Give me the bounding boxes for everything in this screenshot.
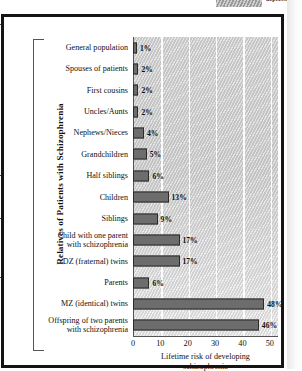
bar-value-label: 6% bbox=[152, 278, 163, 287]
bar-row-label: DZ (fraternal) twins bbox=[45, 257, 133, 266]
bar bbox=[133, 106, 138, 117]
bar-value-label: 2% bbox=[141, 86, 152, 95]
bar-track: 6% bbox=[133, 165, 283, 186]
bar-row-label-line1: First cousins bbox=[87, 86, 128, 95]
bar bbox=[133, 149, 147, 160]
bar-row-label: General population bbox=[45, 43, 133, 52]
bar bbox=[133, 42, 137, 53]
bar-value-label: 2% bbox=[141, 107, 152, 116]
bar-row: General population1% bbox=[45, 37, 283, 58]
bar-track: 13% bbox=[133, 187, 283, 208]
bar-track: 5% bbox=[133, 144, 283, 165]
bar-row-label-line1: Children bbox=[100, 193, 128, 202]
bar-track: 17% bbox=[133, 229, 283, 250]
bar-row: Child with one parentwith schizophrenia1… bbox=[45, 229, 283, 250]
bar-row-label-line1: Nephews/Nieces bbox=[74, 128, 128, 137]
bar-track: 9% bbox=[133, 208, 283, 229]
bar-row: Spouses of patients2% bbox=[45, 58, 283, 79]
bar-track: 4% bbox=[133, 122, 283, 143]
bar-value-label: 46% bbox=[262, 321, 277, 330]
bar bbox=[133, 128, 144, 139]
hatched-swatch-icon bbox=[216, 0, 262, 7]
bar-row-label: Spouses of patients bbox=[45, 64, 133, 73]
bar bbox=[133, 170, 149, 181]
x-tick-label-40: 40 bbox=[238, 339, 246, 348]
bar-row-label: Half siblings bbox=[45, 171, 133, 180]
bar-rows: General population1%Spouses of patients2… bbox=[45, 37, 283, 336]
bar-row-label-line1: Uncles/Aunts bbox=[84, 107, 128, 116]
bar-chart: General population1%Spouses of patients2… bbox=[45, 37, 283, 367]
bar-row: Nephews/Nieces4% bbox=[45, 122, 283, 143]
x-tick-label-20: 20 bbox=[184, 339, 192, 348]
bar-value-label: 48% bbox=[267, 299, 282, 308]
bar-value-label: 2% bbox=[141, 65, 152, 74]
bar-row-label: MZ (identical) twins bbox=[45, 299, 133, 308]
bar-row-label: Uncles/Aunts bbox=[45, 107, 133, 116]
bar-track: 2% bbox=[133, 101, 283, 122]
bar-value-label: 9% bbox=[161, 214, 172, 223]
bar bbox=[133, 298, 264, 309]
bar-row: DZ (fraternal) twins17% bbox=[45, 251, 283, 272]
bar-row: Uncles/Aunts2% bbox=[45, 101, 283, 122]
bar-track: 48% bbox=[133, 293, 283, 314]
bar-row-label-line1: Offspring of two parents bbox=[48, 316, 128, 325]
x-axis-title: Lifetime risk of developing schizophreni… bbox=[133, 352, 278, 371]
bar-row-label-line2: with schizophrenia bbox=[45, 240, 128, 249]
x-tick-label-0: 0 bbox=[131, 339, 135, 348]
bar-row-label: Parents bbox=[45, 278, 133, 287]
bar-row-label: Siblings bbox=[45, 214, 133, 223]
y-axis-bracket bbox=[33, 39, 44, 351]
bar-row-label: Grandchildren bbox=[45, 150, 133, 159]
bar-value-label: 13% bbox=[172, 193, 187, 202]
bar-row: Siblings9% bbox=[45, 208, 283, 229]
bar-row: MZ (identical) twins48% bbox=[45, 293, 283, 314]
bar-row-label-line2: with schizophrenia bbox=[45, 325, 128, 334]
x-tick-label-30: 30 bbox=[211, 339, 219, 348]
bar-value-label: 1% bbox=[140, 43, 151, 52]
bar-row-label: Offspring of two parentswith schizophren… bbox=[45, 316, 133, 334]
bar bbox=[133, 256, 180, 267]
bar-track: 1% bbox=[133, 37, 283, 58]
bar-row-label-line1: DZ (fraternal) twins bbox=[63, 257, 128, 266]
bar-row: Half siblings6% bbox=[45, 165, 283, 186]
bar bbox=[133, 277, 149, 288]
bar-track: 2% bbox=[133, 58, 283, 79]
bar-row: First cousins2% bbox=[45, 80, 283, 101]
bar bbox=[133, 234, 180, 245]
bar bbox=[133, 85, 138, 96]
bar-row: Grandchildren5% bbox=[45, 144, 283, 165]
x-axis: Lifetime risk of developing schizophreni… bbox=[133, 336, 278, 367]
bar-row-label: Nephews/Nieces bbox=[45, 128, 133, 137]
bar bbox=[133, 192, 169, 203]
bar-track: 17% bbox=[133, 251, 283, 272]
bar bbox=[133, 64, 138, 75]
bar-row-label-line1: Siblings bbox=[101, 214, 128, 223]
cropped-legend-strip: depressed bbox=[0, 0, 302, 13]
x-tick-label-10: 10 bbox=[156, 339, 164, 348]
bar-track: 46% bbox=[133, 315, 283, 336]
bar-row-label-line1: Spouses of patients bbox=[66, 64, 129, 73]
x-axis-title-line2: schizophrenia bbox=[133, 362, 278, 371]
bar-track: 6% bbox=[133, 272, 283, 293]
bar bbox=[133, 213, 158, 224]
x-axis-line bbox=[133, 336, 278, 337]
bar-value-label: 17% bbox=[183, 235, 198, 244]
bar-row-label: First cousins bbox=[45, 86, 133, 95]
figure-frame: Relatives of Patients with Schizophrenia… bbox=[1, 14, 284, 368]
bar-row-label-line1: Child with one parent bbox=[58, 231, 128, 240]
bar-row-label: Child with one parentwith schizophrenia bbox=[45, 231, 133, 249]
bar-track: 2% bbox=[133, 80, 283, 101]
bar-row-label-line1: Parents bbox=[104, 278, 128, 287]
bar-value-label: 4% bbox=[147, 129, 158, 138]
bar-value-label: 5% bbox=[150, 150, 161, 159]
bar-row-label: Children bbox=[45, 193, 133, 202]
bar-value-label: 17% bbox=[183, 257, 198, 266]
page-edge-shading bbox=[287, 0, 302, 369]
bar-row-label-line1: General population bbox=[66, 43, 128, 52]
bar bbox=[133, 320, 259, 331]
bar-row-label-line1: Grandchildren bbox=[81, 150, 128, 159]
x-tick-label-50: 50 bbox=[266, 339, 274, 348]
bar-row-label-line1: MZ (identical) twins bbox=[61, 299, 128, 308]
bar-row: Parents6% bbox=[45, 272, 283, 293]
x-axis-title-line1: Lifetime risk of developing bbox=[161, 352, 250, 361]
